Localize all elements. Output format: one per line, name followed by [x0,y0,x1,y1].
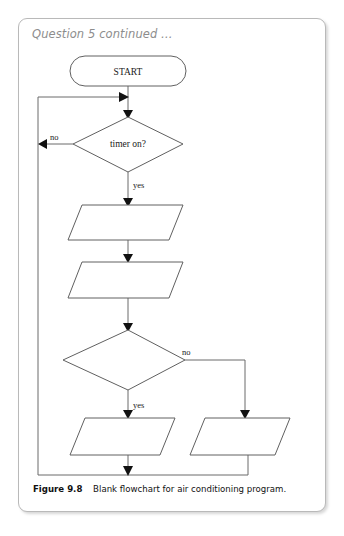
flowchart-diagram: START timer on? no yes no yes [0,0,344,536]
node-process-2 [68,262,183,298]
node-process-4 [190,418,290,455]
arrowhead-decision1-no [38,139,47,149]
node-start-label: START [114,67,143,77]
edge-decision2-no [185,360,245,412]
node-process-1 [68,205,183,240]
edge-label-decision2-yes: yes [133,400,144,410]
node-process-3 [70,418,175,455]
figure-caption-text: Blank flowchart for air conditioning pro… [93,484,286,494]
edge-label-decision1-no: no [50,132,59,142]
figure-caption: Figure 9.8 Blank flowchart for air condi… [33,484,315,494]
edge-label-decision1-yes: yes [133,180,144,190]
node-decision-timer-on-label: timer on? [110,139,146,149]
figure-caption-label: Figure 9.8 [33,484,82,494]
edge-io4-to-join [38,455,248,475]
node-decision-2 [63,330,185,390]
edge-label-decision2-no: no [182,347,191,357]
